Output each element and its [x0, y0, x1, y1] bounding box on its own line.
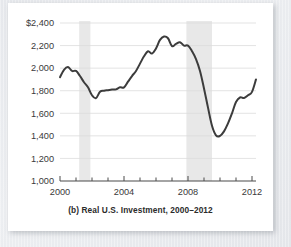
- x-axis-tick-labels: 2000200420082012: [50, 187, 262, 197]
- recession-band-2: [186, 21, 212, 181]
- y-tick-label-2000: 2,000: [31, 63, 54, 73]
- figure-card: 1,0001,2001,4001,6001,8002,0002,200$2,40…: [8, 3, 273, 231]
- y-axis-tick-labels: 1,0001,2001,4001,6001,8002,0002,200$2,40…: [26, 18, 54, 186]
- plot-area: 1,0001,2001,4001,6001,8002,0002,200$2,40…: [8, 3, 273, 203]
- x-tick-label-2012: 2012: [242, 187, 262, 197]
- y-tick-label-1000: 1,000: [31, 176, 54, 186]
- y-tick-label-1400: 1,400: [31, 131, 54, 141]
- figure-caption: (b) Real U.S. Investment, 2000–2012: [8, 205, 273, 215]
- x-tick-label-2004: 2004: [114, 187, 134, 197]
- x-tick-label-2008: 2008: [178, 187, 198, 197]
- y-tick-label-1200: 1,200: [31, 154, 54, 164]
- recession-bands: [79, 21, 212, 181]
- line-chart: 1,0001,2001,4001,6001,8002,0002,200$2,40…: [8, 3, 273, 203]
- y-tick-label-1800: 1,800: [31, 86, 54, 96]
- x-tick-label-2000: 2000: [50, 187, 70, 197]
- y-tick-label-2200: 2,200: [31, 41, 54, 51]
- y-tick-label-2400: $2,400: [26, 18, 54, 28]
- y-tick-label-1600: 1,600: [31, 109, 54, 119]
- recession-band-1: [79, 21, 90, 181]
- figure-root: 1,0001,2001,4001,6001,8002,0002,200$2,40…: [0, 0, 291, 247]
